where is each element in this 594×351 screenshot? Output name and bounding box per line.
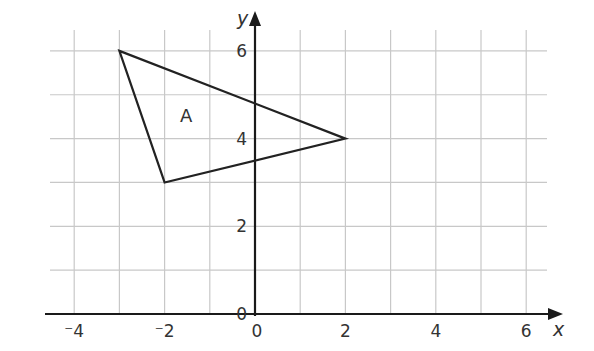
x-axis-label: x (552, 318, 565, 340)
x-tick-label: ⁻2 (155, 321, 175, 341)
shapes: A (119, 51, 345, 183)
y-axis-arrow-icon (249, 11, 261, 26)
y-tick-label: 2 (236, 216, 247, 236)
x-tick-label: 6 (521, 321, 532, 341)
axis-labels: ⁻4⁻202460246xy (64, 7, 565, 341)
y-tick-label: 0 (236, 304, 247, 324)
x-tick-label: 4 (430, 321, 441, 341)
coordinate-grid-diagram: ⁻4⁻202460246xy A (0, 0, 594, 351)
triangle-a (119, 51, 345, 183)
grid-lines (50, 30, 547, 314)
y-tick-label: 4 (236, 129, 247, 149)
x-tick-label: ⁻4 (64, 321, 84, 341)
y-tick-label: 6 (236, 41, 247, 61)
x-tick-label: 2 (340, 321, 351, 341)
x-tick-label: 0 (252, 321, 263, 341)
shape-label: A (180, 105, 193, 126)
y-axis-label: y (236, 7, 249, 29)
